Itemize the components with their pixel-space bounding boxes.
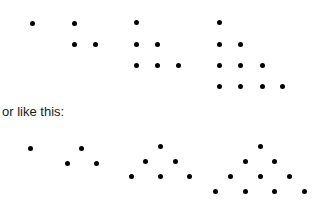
dot xyxy=(65,161,70,166)
dot xyxy=(302,189,307,194)
dot xyxy=(243,159,248,164)
dot xyxy=(258,144,263,149)
dot xyxy=(243,189,248,194)
dot xyxy=(272,159,277,164)
dot xyxy=(228,174,233,179)
dot xyxy=(272,189,277,194)
dot xyxy=(129,174,134,179)
triangle-dot-figure xyxy=(0,0,332,208)
dot xyxy=(258,174,263,179)
dot xyxy=(213,189,218,194)
dot xyxy=(158,144,163,149)
dot xyxy=(287,174,292,179)
dot xyxy=(158,174,163,179)
dot xyxy=(143,159,148,164)
dot xyxy=(94,161,99,166)
dot xyxy=(79,146,84,151)
dot xyxy=(173,159,178,164)
dot xyxy=(28,146,33,151)
dot xyxy=(187,174,192,179)
